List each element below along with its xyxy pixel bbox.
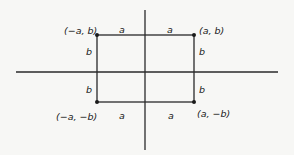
corner-label-bottom-right: (a, −b) <box>197 109 230 119</box>
side-label-right-bottom-b: b <box>199 85 205 95</box>
coordinate-diagram <box>0 0 294 155</box>
side-label-left-top-b: b <box>86 47 92 57</box>
side-label-right-top-b: b <box>199 47 205 57</box>
corner-dot-bottom-left <box>95 100 99 104</box>
corner-label-top-left: (−a, b) <box>64 26 97 36</box>
side-label-top-left-a: a <box>119 25 125 35</box>
side-label-bottom-left-a: a <box>119 111 125 121</box>
side-label-top-right-a: a <box>167 25 173 35</box>
side-label-bottom-right-a: a <box>168 111 174 121</box>
side-label-left-bottom-b: b <box>86 85 92 95</box>
corner-dot-bottom-right <box>192 100 196 104</box>
corner-label-bottom-left: (−a, −b) <box>56 112 97 122</box>
corner-label-top-right: (a, b) <box>199 26 224 36</box>
corner-dot-top-right <box>192 33 196 37</box>
